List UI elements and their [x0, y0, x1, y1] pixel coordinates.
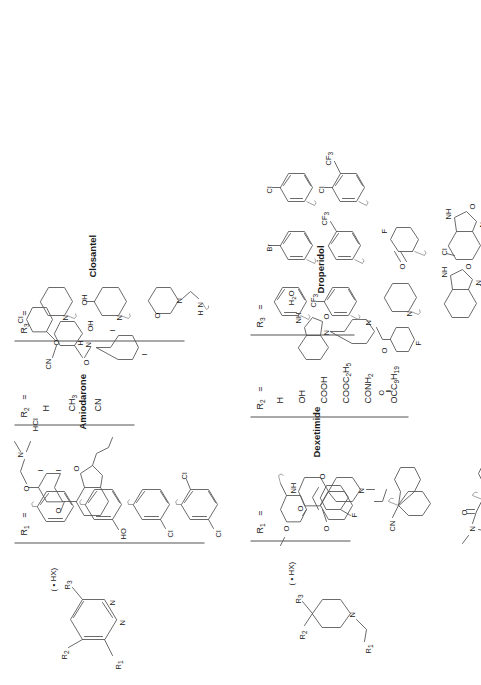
svg-text:F: F: [379, 228, 388, 233]
svg-text:O: O: [397, 263, 406, 269]
svg-text:O: O: [321, 525, 330, 531]
svg-text:H: H: [76, 340, 83, 345]
column-r1-b: R1 = O O F: [254, 510, 268, 533]
svg-text:Cl: Cl: [15, 316, 24, 323]
svg-text:OH: OH: [85, 320, 94, 331]
entry-cooc2h5-b: COOC2H5: [340, 362, 352, 403]
svg-text:O: O: [281, 525, 290, 531]
entry-occ9h19-b: O ‖ OCC9H19: [388, 366, 400, 403]
entry-4-trifluoromethylphenyl: CF3: [316, 263, 364, 325]
svg-text:O: O: [21, 485, 30, 491]
svg-text:Cl: Cl: [165, 530, 174, 537]
svg-text:I: I: [53, 469, 62, 471]
svg-text:I: I: [139, 353, 148, 355]
svg-text:N: N: [15, 452, 24, 457]
column-r3-b: R3 = CF3: [254, 304, 268, 327]
entry-cooh-b: COOH: [318, 376, 328, 403]
svg-text:R1: R1: [113, 660, 123, 669]
panel-bottom: N R1 R2 R3 ( • HX) R1 = O: [240, 0, 480, 685]
svg-text:I: I: [107, 329, 116, 331]
svg-text:R3: R3: [293, 594, 303, 603]
svg-text:N: N: [477, 222, 481, 227]
column-r3-b-header: R3 =: [254, 304, 268, 327]
entry-cyano-diphenylethyl: CN: [380, 435, 456, 531]
entry-fluorobenzoyl-propyl: O F: [316, 451, 378, 531]
svg-text:N: N: [473, 280, 481, 285]
drug-amiodarone-name: Amiodarone: [76, 374, 87, 429]
column-r3-b-eq: =: [254, 304, 264, 309]
svg-text:N: N: [467, 526, 476, 531]
svg-text:N: N: [117, 620, 126, 625]
svg-text:Cl: Cl: [316, 186, 325, 193]
svg-text:N: N: [347, 612, 356, 617]
column-r1-b-eq: =: [254, 510, 264, 515]
svg-text:R3: R3: [62, 580, 72, 589]
column-r1-b-header: R1 =: [254, 510, 268, 533]
chemistry-figure: R1 N N R2 R3 ( • HX) R1 R1 =: [0, 0, 481, 685]
svg-text:F: F: [349, 512, 358, 517]
svg-text:CN: CN: [43, 358, 52, 369]
svg-text:Br: Br: [264, 243, 273, 251]
entry-h-b: H: [274, 397, 284, 404]
entry-oh-b: OH: [296, 390, 306, 404]
column-r3-eq: =: [18, 310, 28, 315]
svg-text:Cl: Cl: [264, 186, 273, 193]
svg-text:R1: R1: [363, 644, 373, 653]
svg-text:NH: NH: [443, 208, 452, 219]
entry-chloro-benzimidazolone: Cl NH O N: [436, 185, 481, 269]
entry-4-methoxybenzyl: O: [270, 445, 306, 531]
drug-amiodarone-salt: HCl: [30, 418, 39, 431]
svg-text:I: I: [35, 469, 44, 471]
svg-text:H: H: [196, 310, 203, 315]
entry-2-4-dichlorophenyl: Cl Cl: [174, 461, 224, 531]
entry-4-bromophenyl: Br: [270, 207, 322, 269]
drug-closantel-name: Closantel: [86, 234, 97, 277]
column-r2-b: R2 = H OH COOH COOC2H5 CONH2 O ‖ OCC9H19: [254, 386, 268, 409]
svg-text:CF3: CF3: [323, 151, 333, 165]
scaffold-pyridazine-core: R1 N N R2 R3 ( • HX): [52, 557, 142, 677]
entry-piperidin-1-yl-b: N: [378, 273, 424, 325]
svg-text:Cl: Cl: [213, 530, 222, 537]
entry-phenyl-b: [270, 281, 312, 325]
entry-chloro-trifluoromethylphenyl: Cl CF3: [320, 133, 378, 211]
svg-text:N: N: [404, 311, 413, 316]
entry-4-fluorobenzoyl: O F: [378, 199, 434, 269]
scaffold-salt-note: ( • HX): [48, 567, 57, 591]
svg-text:N: N: [83, 342, 92, 347]
svg-text:CN: CN: [387, 520, 396, 531]
svg-text:O: O: [467, 203, 476, 209]
column-r2-b-eq: =: [254, 386, 264, 391]
panel-top: R1 N N R2 R3 ( • HX) R1 R1 =: [0, 0, 240, 685]
svg-text:N: N: [107, 600, 116, 605]
svg-text:CF3: CF3: [319, 211, 329, 225]
entry-4-chlorophenyl-b: Cl: [270, 149, 322, 211]
svg-text:Cl: Cl: [179, 472, 188, 479]
column-r2-b-header: R2 =: [254, 386, 268, 409]
drug-amiodarone: O O I I O N Amiodarone HCl: [24, 385, 144, 535]
entry-dimethylcarbamoyl-diphenyl: N O: [460, 435, 481, 531]
svg-text:N: N: [174, 298, 183, 303]
svg-text:O: O: [71, 465, 80, 471]
scaffold-salt-note-2: ( • HX): [286, 561, 295, 585]
svg-text:R2: R2: [297, 630, 307, 639]
entry-conh2-b: CONH2: [362, 373, 374, 403]
svg-text:R2: R2: [59, 650, 69, 659]
drug-closantel: Cl O CN O N H OH I I Clo: [28, 235, 158, 375]
svg-text:O: O: [81, 359, 90, 365]
scaffold-piperidine-core: N R1 R2 R3 ( • HX): [296, 541, 396, 671]
